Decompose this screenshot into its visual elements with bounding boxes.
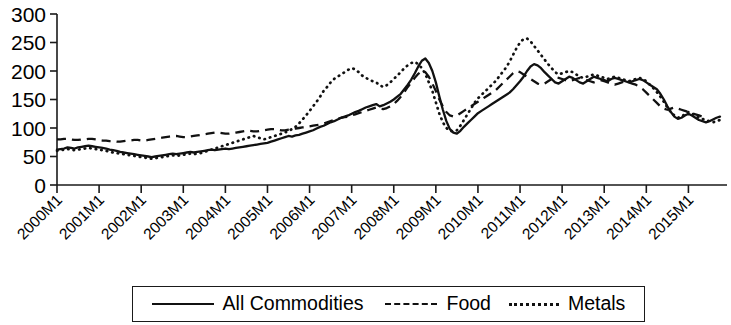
x-tick-label: 2002M1: [98, 191, 150, 243]
x-tick-label: 2014M1: [603, 191, 655, 243]
x-tick-label: 2009M1: [392, 191, 444, 243]
y-tick-label: 250: [11, 31, 46, 54]
x-axis: [57, 185, 727, 193]
commodity-price-index-chart: 300250200150100500 2000M12001M12002M1200…: [0, 0, 731, 325]
chart-legend: All Commodities Food Metals: [132, 286, 645, 322]
y-tick-label: 150: [11, 88, 46, 111]
legend-item-metals: Metals: [509, 294, 625, 314]
legend-label-all-commodities: All Commodities: [223, 294, 364, 314]
y-tick-label: 200: [11, 60, 46, 83]
chart-plot-area: 300250200150100500 2000M12001M12002M1200…: [0, 0, 731, 286]
x-tick-label: 2010M1: [434, 191, 486, 243]
series-line-metals: [57, 39, 720, 159]
legend-label-food: Food: [446, 294, 490, 314]
legend-swatch-dashed: [385, 303, 437, 305]
x-tick-label: 2004M1: [182, 191, 234, 243]
legend-swatch-solid: [152, 303, 214, 305]
x-tick-label: 2001M1: [56, 191, 108, 243]
x-axis-tick-labels: 2000M12001M12002M12003M12004M12005M12006…: [13, 191, 696, 243]
x-tick-label: 2007M1: [308, 191, 360, 243]
x-tick-label: 2008M1: [350, 191, 402, 243]
x-tick-label: 2000M1: [13, 191, 65, 243]
x-tick-label: 2013M1: [561, 191, 613, 243]
x-tick-label: 2005M1: [224, 191, 276, 243]
y-tick-label: 100: [11, 117, 46, 140]
data-series-group: [57, 39, 720, 159]
legend-item-all-commodities: All Commodities: [152, 294, 364, 314]
x-tick-label: 2006M1: [266, 191, 318, 243]
x-tick-label: 2012M1: [519, 191, 571, 243]
y-tick-label: 0: [34, 174, 46, 197]
x-tick-label: 2015M1: [645, 191, 697, 243]
x-tick-label: 2011M1: [477, 191, 528, 242]
y-tick-label: 300: [11, 3, 46, 26]
legend-swatch-dotted: [509, 303, 559, 306]
y-tick-label: 50: [23, 145, 46, 168]
x-tick-label: 2003M1: [140, 191, 192, 243]
y-axis: 300250200150100500: [11, 3, 57, 197]
legend-label-metals: Metals: [568, 294, 625, 314]
legend-item-food: Food: [385, 294, 490, 314]
